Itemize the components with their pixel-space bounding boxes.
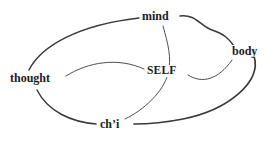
edge-thought-self: [66, 62, 144, 76]
node-thought: thought: [9, 72, 51, 84]
node-mind: mind: [141, 10, 170, 22]
node-body: body: [231, 45, 258, 57]
edge-self-body: [188, 60, 232, 80]
node-chi: ch’i: [99, 118, 120, 130]
node-self: SELF: [146, 65, 178, 77]
edge-mind-body: [180, 16, 234, 46]
edge-chi-thought: [37, 90, 96, 124]
edge-thought-mind: [29, 18, 139, 70]
concept-diagram: mind body thought SELF ch’i: [0, 0, 280, 142]
